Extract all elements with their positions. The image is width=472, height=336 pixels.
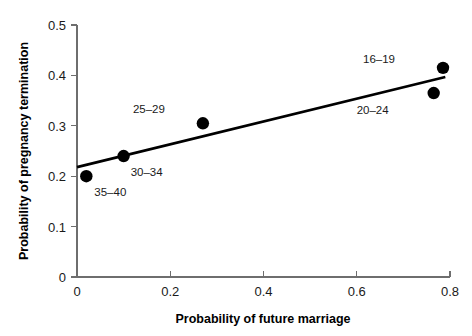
y-tick-label: 0.5 bbox=[48, 18, 66, 33]
data-point-label: 25–29 bbox=[133, 103, 165, 115]
x-tick-label: 0.6 bbox=[348, 284, 366, 299]
y-tick-labels: 0.5 0.4 0.3 0.2 0.1 0 bbox=[48, 18, 66, 285]
data-point-label: 20–24 bbox=[357, 104, 390, 116]
data-point-label: 35–40 bbox=[94, 186, 126, 198]
y-tick-label: 0.3 bbox=[48, 119, 66, 134]
scatter-plot-figure: 0.5 0.4 0.3 0.2 0.1 0 0 0.2 0.4 0.6 0.8 … bbox=[0, 0, 472, 336]
x-tick-labels: 0 0.2 0.4 0.6 0.8 bbox=[73, 284, 459, 299]
y-tick-label: 0.4 bbox=[48, 68, 66, 83]
y-tick-label: 0.2 bbox=[48, 169, 66, 184]
data-point bbox=[197, 117, 209, 129]
y-tick-label: 0 bbox=[59, 270, 66, 285]
y-axis-title: Probability of pregnancy termination bbox=[17, 42, 31, 260]
data-points-layer: 35–4030–3425–2920–2416–19 bbox=[80, 53, 449, 198]
x-tick-label: 0 bbox=[73, 284, 80, 299]
data-point bbox=[80, 170, 92, 182]
y-tick-label: 0.1 bbox=[48, 220, 66, 235]
trend-line bbox=[77, 77, 445, 167]
data-point bbox=[427, 87, 439, 99]
x-tick-label: 0.8 bbox=[441, 284, 459, 299]
y-axis-ticks bbox=[71, 25, 77, 277]
x-tick-label: 0.4 bbox=[254, 284, 272, 299]
x-axis-ticks bbox=[77, 271, 450, 277]
data-point-label: 30–34 bbox=[131, 166, 164, 178]
data-point-label: 16–19 bbox=[363, 53, 395, 65]
data-point bbox=[117, 150, 129, 162]
x-axis-title: Probability of future marriage bbox=[175, 312, 350, 326]
x-tick-label: 0.2 bbox=[161, 284, 179, 299]
data-point bbox=[437, 62, 449, 74]
plot-canvas: 0.5 0.4 0.3 0.2 0.1 0 0 0.2 0.4 0.6 0.8 … bbox=[0, 0, 472, 336]
